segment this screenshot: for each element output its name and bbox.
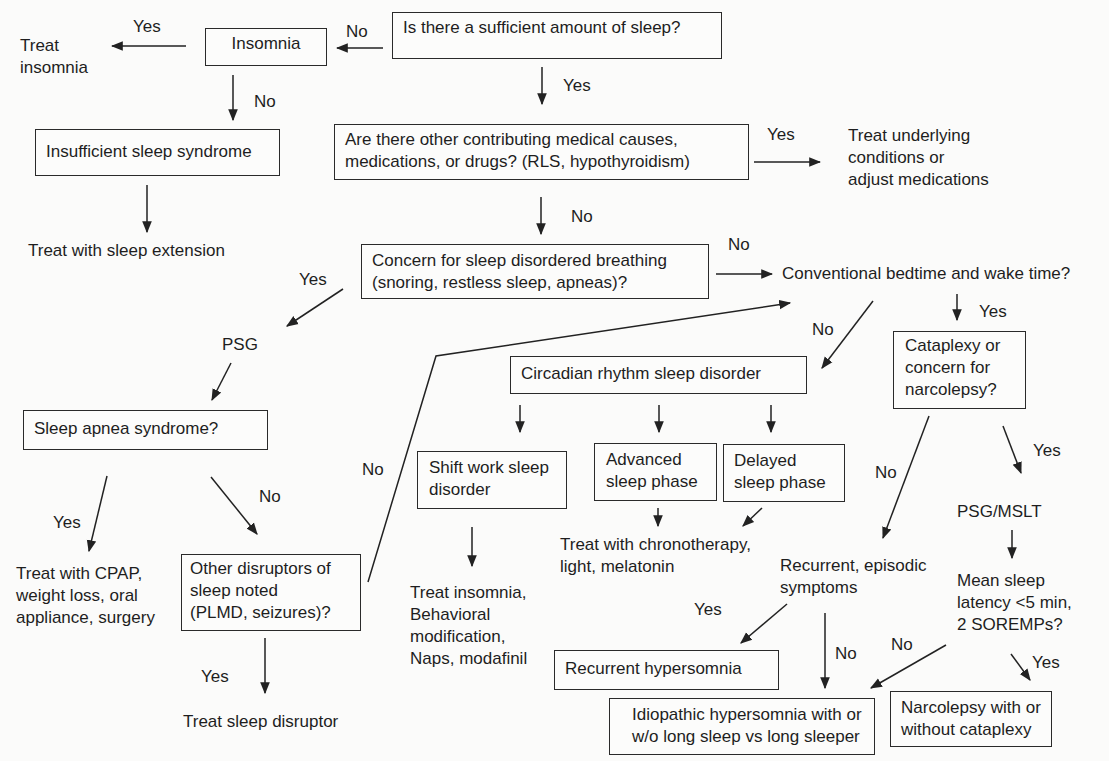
label-breathing-no: No — [728, 235, 750, 255]
node-conventional-bedtime-question: Conventional bedtime and wake time? — [782, 263, 1070, 285]
arrow-breathing-yes — [287, 289, 343, 326]
node-treat-cpap: Treat with CPAP, weight loss, oral appli… — [16, 563, 155, 629]
label-recurrent-no: No — [835, 644, 857, 664]
node-treat-chronotherapy: Treat with chronotherapy, light, melaton… — [560, 534, 751, 578]
node-treat-sleep-extension: Treat with sleep extension — [28, 240, 225, 262]
node-recurrent-hypersomnia: Recurrent hypersomnia — [554, 650, 779, 690]
node-recurrent-symptoms: Recurrent, episodic symptoms — [780, 555, 926, 599]
node-advanced-sleep-phase: Advanced sleep phase — [594, 443, 717, 501]
arrow-apnea-no — [211, 477, 257, 534]
node-mean-sleep-latency-question: Mean sleep latency <5 min, 2 SOREMPs? — [957, 570, 1072, 636]
label-insomnia-yes: Yes — [133, 17, 161, 37]
arrow-recurrent-yes — [741, 604, 787, 643]
label-latency-no: No — [891, 635, 913, 655]
node-delayed-sleep-phase: Delayed sleep phase — [723, 444, 845, 502]
node-medical-causes-question: Are there other contributing medical cau… — [334, 124, 749, 180]
arrow-psg-apnea — [212, 363, 231, 400]
label-sufficient-no: No — [346, 22, 368, 42]
arrow-cataplexy-yes — [1003, 426, 1021, 473]
label-sufficient-yes: Yes — [563, 76, 591, 96]
label-medical-yes: Yes — [767, 125, 795, 145]
node-treat-underlying: Treat underlying conditions or adjust me… — [848, 125, 989, 191]
node-idiopathic-hypersomnia: Idiopathic hypersomnia with or w/o long … — [609, 698, 875, 755]
label-conventional-no: No — [812, 320, 834, 340]
node-psg: PSG — [222, 334, 258, 356]
node-breathing-question: Concern for sleep disordered breathing (… — [361, 244, 709, 299]
label-breathing-yes: Yes — [299, 270, 327, 290]
node-sleep-apnea-question: Sleep apnea syndrome? — [23, 410, 268, 450]
label-recurrent-yes: Yes — [694, 600, 722, 620]
label-latency-yes: Yes — [1032, 653, 1060, 673]
arrow-apnea-yes — [89, 476, 107, 551]
node-insufficient-sleep-syndrome: Insufficient sleep syndrome — [35, 129, 280, 176]
node-other-disruptors-question: Other disruptors of sleep noted (PLMD, s… — [181, 554, 361, 631]
arrow-delayed-chrono — [743, 508, 762, 526]
node-psg-mslt: PSG/MSLT — [957, 501, 1042, 523]
label-apnea-no: No — [259, 487, 281, 507]
label-apnea-yes: Yes — [53, 513, 81, 533]
node-shift-work-disorder: Shift work sleep disorder — [417, 451, 567, 509]
label-conventional-yes: Yes — [979, 302, 1007, 322]
label-insomnia-no: No — [254, 92, 276, 112]
label-disruptors-no: No — [362, 460, 384, 480]
node-treat-shift-work: Treat insomnia, Behavioral modification,… — [410, 582, 527, 670]
node-sufficient-sleep-question: Is there a sufficient amount of sleep? — [392, 12, 722, 59]
label-cataplexy-yes: Yes — [1033, 441, 1061, 461]
node-treat-insomnia: Treat insomnia — [20, 35, 88, 79]
label-medical-no: No — [571, 207, 593, 227]
node-circadian-rhythm-disorder: Circadian rhythm sleep disorder — [510, 356, 807, 394]
node-treat-sleep-disruptor: Treat sleep disruptor — [183, 711, 338, 733]
node-narcolepsy: Narcolepsy with or without cataplexy — [890, 691, 1052, 747]
arrow-latency-yes — [1011, 654, 1030, 680]
node-cataplexy-question: Cataplexy or concern for narcolepsy? — [893, 331, 1026, 409]
label-cataplexy-no: No — [875, 463, 897, 483]
label-disruptors-yes: Yes — [201, 667, 229, 687]
node-insomnia: Insomnia — [205, 28, 327, 66]
